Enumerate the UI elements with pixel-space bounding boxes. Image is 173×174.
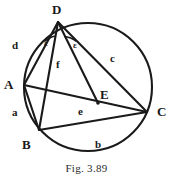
segment-label-d: d xyxy=(12,40,18,51)
point-label-B: B xyxy=(22,138,31,151)
figure-caption: Fig. 3.89 xyxy=(0,163,173,174)
angle-label-EDC: ε xyxy=(73,41,77,50)
point-label-D: D xyxy=(52,3,61,16)
segment-label-f: f xyxy=(56,59,60,70)
segment-label-a: a xyxy=(12,107,18,118)
angle-label-ADB: ε xyxy=(44,39,48,48)
figure-container: D A B C E d f c a b e ε ε Fig. 3.89 xyxy=(0,0,173,174)
segment-label-c: c xyxy=(110,53,115,64)
segment-BC xyxy=(39,112,147,130)
segment-label-b: b xyxy=(95,139,101,150)
segment-label-e: e xyxy=(78,106,83,117)
point-label-A: A xyxy=(4,78,13,91)
point-label-E: E xyxy=(100,88,109,101)
segment-DE xyxy=(58,22,98,103)
segment-AB xyxy=(24,85,39,130)
point-label-C: C xyxy=(157,105,166,118)
